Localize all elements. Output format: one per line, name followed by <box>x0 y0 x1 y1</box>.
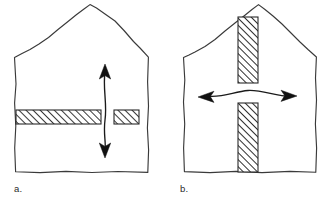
figure-root: a. b. <box>0 0 329 198</box>
panel-b: b. <box>180 5 317 194</box>
horizontal-wall-short <box>114 110 139 124</box>
panel-a: a. <box>14 5 149 194</box>
vertical-wall-lower <box>238 103 258 172</box>
panel-label-a: a. <box>14 183 22 194</box>
panel-label-b: b. <box>180 183 188 194</box>
house-outline-a <box>15 5 149 173</box>
vertical-wall-upper <box>238 17 258 83</box>
house-diagram: a. b. <box>0 0 329 198</box>
horizontal-wall-long <box>16 110 101 124</box>
